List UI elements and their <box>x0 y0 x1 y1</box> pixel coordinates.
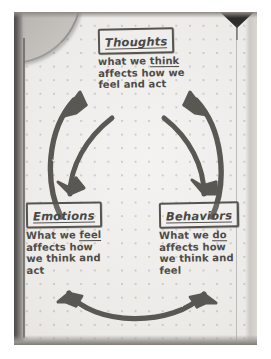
photograph: Thoughts what we thinkaffects how wefeel… <box>0 0 271 359</box>
notebook-page: Thoughts what we thinkaffects how wefeel… <box>14 12 257 345</box>
node-emotions[interactable]: Emotions What we feelaffects howwe think… <box>26 202 102 276</box>
node-thoughts-body-line2: affects how we <box>98 67 185 79</box>
node-behaviors[interactable]: Behaviors What we doaffects howwe think … <box>159 202 239 276</box>
node-emotions-body-line4: act <box>26 265 44 276</box>
arrow-behaviors-to-thoughts <box>184 92 221 217</box>
node-emotions-body-line1-underlined: feel <box>79 229 101 241</box>
node-emotions-body-line3: we think and <box>26 252 100 264</box>
node-thoughts-body: what we thinkaffects how wefeel and act <box>98 55 185 91</box>
node-behaviors-box: Behaviors <box>159 201 240 228</box>
node-emotions-body-line2: affects how <box>26 241 93 253</box>
node-thoughts-body-line1-pre: what we <box>98 55 150 67</box>
node-thoughts-box: Thoughts <box>98 27 175 55</box>
node-behaviors-body-line3: we think and <box>159 252 233 264</box>
node-emotions-body: What we feelaffects howwe think andact <box>26 229 102 276</box>
node-emotions-label: Emotions <box>33 210 95 224</box>
notebook-photo-area: Thoughts what we thinkaffects how wefeel… <box>14 12 257 345</box>
node-emotions-body-line1-pre: What we <box>26 229 80 241</box>
arrow-thoughts-to-behaviors <box>164 118 217 194</box>
node-behaviors-body-line1-underlined: do <box>212 229 226 241</box>
arrow-thoughts-to-emotions <box>58 118 112 194</box>
node-behaviors-body-line4: feel <box>159 265 181 276</box>
node-behaviors-label: Behaviors <box>166 209 232 223</box>
node-thoughts-label: Thoughts <box>105 35 168 49</box>
node-behaviors-body-line2: affects how <box>159 241 226 253</box>
node-behaviors-body: What we doaffects howwe think andfeel <box>159 229 240 276</box>
node-behaviors-body-line1-pre: What we <box>159 229 213 241</box>
node-thoughts[interactable]: Thoughts what we thinkaffects how wefeel… <box>98 28 185 91</box>
node-thoughts-body-line1-underlined: think <box>150 55 180 67</box>
node-emotions-box: Emotions <box>26 201 102 228</box>
node-thoughts-body-line3: feel and act <box>98 78 166 90</box>
arrow-behaviors-to-emotions <box>58 293 204 319</box>
